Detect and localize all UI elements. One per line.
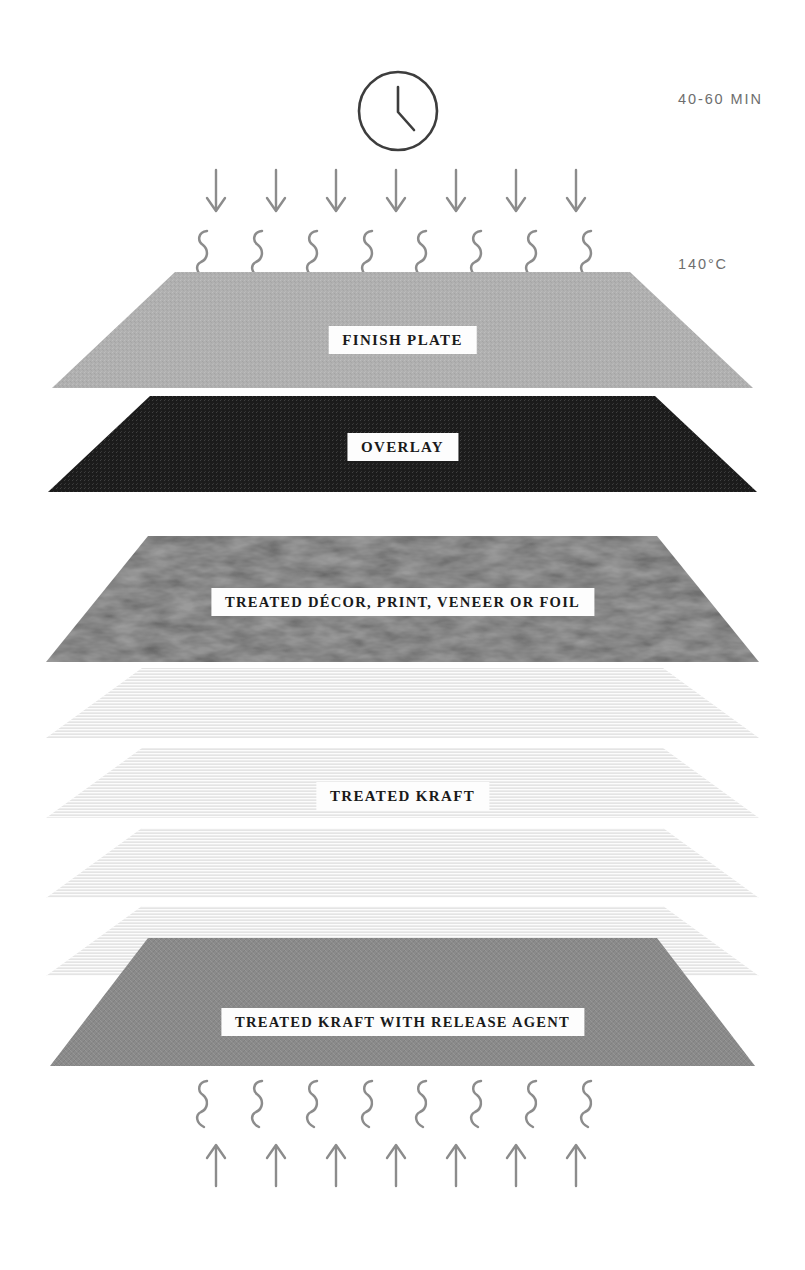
heat-wave-icon — [303, 228, 323, 280]
heat-wave-icon — [193, 228, 213, 280]
heat-wave-icon — [303, 1078, 323, 1130]
heat-wave-icon — [412, 1078, 432, 1130]
arrow-up-icon — [565, 1142, 587, 1188]
arrow-down-icon — [385, 168, 407, 214]
arrow-down-icon — [565, 168, 587, 214]
layer-texture-treated-kraft-4 — [46, 906, 759, 976]
layer-caption-treated-decor: TREATED DÉCOR, PRINT, VENEER OR FOIL — [211, 588, 594, 616]
layer-texture-treated-kraft-1 — [46, 668, 759, 738]
layer-treated-kraft-1 — [46, 668, 759, 738]
layer-treated-kraft-release-agent — [50, 938, 755, 1066]
arrow-up-icon — [505, 1142, 527, 1188]
arrow-up-icon — [445, 1142, 467, 1188]
clock-icon — [355, 68, 441, 154]
arrow-up-icon — [325, 1142, 347, 1188]
process-temperature-label: 140°C — [678, 256, 728, 272]
layer-treated-kraft-3 — [46, 828, 759, 898]
heat-wave-icon — [522, 1078, 542, 1130]
heat-wave-icon — [358, 1078, 378, 1130]
arrow-down-icon — [505, 168, 527, 214]
process-time-label: 40-60 MIN — [678, 91, 763, 107]
layer-texture-treated-kraft-3 — [46, 828, 759, 898]
arrow-down-icon — [265, 168, 287, 214]
heat-squiggles-top — [193, 228, 597, 280]
arrow-down-icon — [325, 168, 347, 214]
laminate-layer-diagram: 40-60 MIN 140°C — [0, 0, 805, 1270]
heat-squiggles-bottom — [193, 1078, 597, 1130]
layer-caption-treated-kraft-3: TREATED KRAFT — [316, 782, 489, 810]
arrow-down-icon — [445, 168, 467, 214]
arrow-down-icon — [205, 168, 227, 214]
heat-wave-icon — [412, 228, 432, 280]
arrow-up-icon — [265, 1142, 287, 1188]
layer-texture-treated-kraft-release-agent — [50, 938, 755, 1066]
heat-wave-icon — [248, 1078, 268, 1130]
arrow-up-icon — [205, 1142, 227, 1188]
heat-wave-icon — [467, 1078, 487, 1130]
layer-caption-finish-plate: FINISH PLATE — [328, 326, 477, 354]
layer-caption-treated-kraft-release-agent: TREATED KRAFT WITH RELEASE AGENT — [221, 1008, 584, 1036]
layer-caption-overlay: OVERLAY — [347, 433, 458, 461]
pressure-arrows-bottom — [205, 1142, 587, 1188]
heat-wave-icon — [358, 228, 378, 280]
pressure-arrows-top — [205, 168, 587, 214]
heat-wave-icon — [248, 228, 268, 280]
layer-treated-kraft-4 — [46, 906, 759, 976]
arrow-up-icon — [385, 1142, 407, 1188]
heat-wave-icon — [522, 228, 542, 280]
heat-wave-icon — [577, 228, 597, 280]
heat-wave-icon — [193, 1078, 213, 1130]
heat-wave-icon — [577, 1078, 597, 1130]
heat-wave-icon — [467, 228, 487, 280]
